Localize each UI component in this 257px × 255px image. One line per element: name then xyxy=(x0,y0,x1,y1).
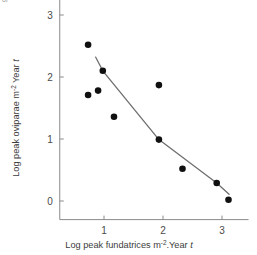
data-point xyxy=(156,136,163,143)
y-axis-ticks: 0123 xyxy=(47,10,64,207)
data-point xyxy=(85,42,92,49)
x-axis-label: Log peak fundatrices m-2.Year t xyxy=(65,239,193,250)
data-point xyxy=(156,82,163,89)
x-tick-label: 1 xyxy=(101,225,107,236)
x-axis-ticks: 123 xyxy=(101,216,225,236)
y-tick-label: 1 xyxy=(47,134,53,145)
y-tick-label: 0 xyxy=(47,196,53,207)
y-tick-label: 3 xyxy=(47,10,53,21)
data-point xyxy=(225,197,232,204)
x-tick-label: 2 xyxy=(160,225,166,236)
data-point xyxy=(95,87,102,94)
data-point xyxy=(179,166,186,173)
data-point xyxy=(111,113,118,120)
data-point xyxy=(213,180,220,187)
y-tick-label: 2 xyxy=(47,72,53,83)
y-axis-label: Log peak oviparae m-2 Year t xyxy=(10,59,21,177)
x-tick-label: 3 xyxy=(219,225,225,236)
data-point xyxy=(100,68,107,75)
fitted-trend-line xyxy=(96,57,229,194)
scatter-plot: 123 0123 Log peak fundatrices m-2.Year t… xyxy=(0,0,257,255)
figure-panel: or 123 0123 Log peak fundatrices m-2.Yea… xyxy=(0,0,257,255)
data-points xyxy=(85,42,232,204)
data-point xyxy=(85,92,92,99)
